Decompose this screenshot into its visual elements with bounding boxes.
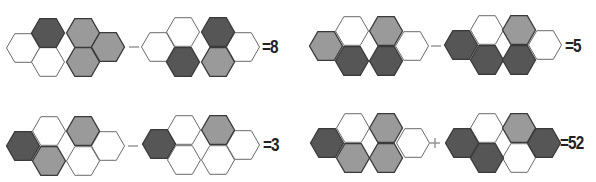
hexagon-white [529,31,562,60]
hexagon-white [336,17,369,46]
hex-figure-2 [143,116,260,175]
hexagon-dark [336,47,369,76]
hex-figure-1 [7,19,125,77]
hex-figure-1 [7,117,125,176]
hexagon-white [397,129,430,158]
equation-4 [311,114,561,173]
hex-figure-2 [142,18,260,77]
hexagon-gray [33,147,66,176]
equation-3 [7,116,260,176]
hex-figure-1 [311,114,430,173]
equation-1 [7,18,260,77]
equation-4-result: =52 [560,134,583,152]
hexagon-gray [370,17,403,46]
hexagon-dark [7,132,40,161]
hexagon-puzzle [0,0,596,182]
equation-3-result: =3 [263,136,279,154]
hexagon-white [33,117,66,146]
hexagon-dark [445,31,478,60]
hex-figure-1 [310,17,429,76]
hexagon-gray [503,16,536,45]
equation-2 [310,16,562,76]
equation-2-result: =5 [565,37,581,55]
hexagon-gray [310,32,343,61]
hexagon-gray [370,144,403,173]
hexagon-dark [503,46,536,75]
hex-figure-2 [446,114,561,173]
hexagon-gray [337,144,370,173]
hexagon-white [337,114,370,143]
hexagon-white [396,32,429,61]
hexagon-gray [370,114,403,143]
hexagon-dark [311,129,344,158]
hexagon-white [471,16,504,45]
hex-figure-2 [445,16,562,75]
hexagon-dark [471,46,504,75]
hexagon-dark [370,47,403,76]
plus-sign [430,138,440,148]
equation-1-result: =8 [262,38,278,56]
